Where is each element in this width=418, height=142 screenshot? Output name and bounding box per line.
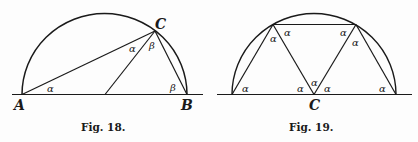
- segment-left-side: [232, 25, 273, 95]
- point-label-A: A: [12, 97, 25, 113]
- angle-label-alpha-A: α: [47, 83, 54, 94]
- segment-left-inner: [273, 25, 314, 95]
- angle-label-left-top-right: α: [284, 27, 291, 38]
- segment-right-inner: [314, 25, 356, 95]
- figure-caption-18: Fig. 18.: [81, 121, 125, 133]
- chord-AC: [22, 31, 155, 95]
- angle-label-beta-B: β: [169, 82, 176, 93]
- angle-label-right-base: α: [379, 83, 386, 94]
- geometry-diagrams: A B C α α β β Fig. 18. C α α α α α α α α…: [0, 0, 418, 142]
- angle-label-right-top-left: α: [340, 27, 347, 38]
- angle-label-center-left: α: [297, 83, 304, 94]
- angle-label-center-right: α: [324, 83, 331, 94]
- figure-caption-19: Fig. 19.: [289, 121, 333, 133]
- point-label-B: B: [180, 97, 193, 113]
- angle-label-left-top-inner: α: [270, 33, 277, 44]
- angle-label-alpha-C: α: [129, 43, 136, 54]
- segment-right-side: [356, 25, 396, 95]
- angle-label-center-mid: α: [311, 77, 318, 88]
- angle-label-right-top-inner: α: [352, 37, 359, 48]
- figure-page: A B C α α β β Fig. 18. C α α α α α α α α…: [0, 0, 418, 142]
- point-label-C-fig19: C: [309, 97, 320, 113]
- angle-label-left-base: α: [242, 83, 249, 94]
- point-label-C: C: [155, 16, 166, 32]
- angle-label-beta-C: β: [148, 40, 155, 51]
- radius-OC: [105, 31, 155, 95]
